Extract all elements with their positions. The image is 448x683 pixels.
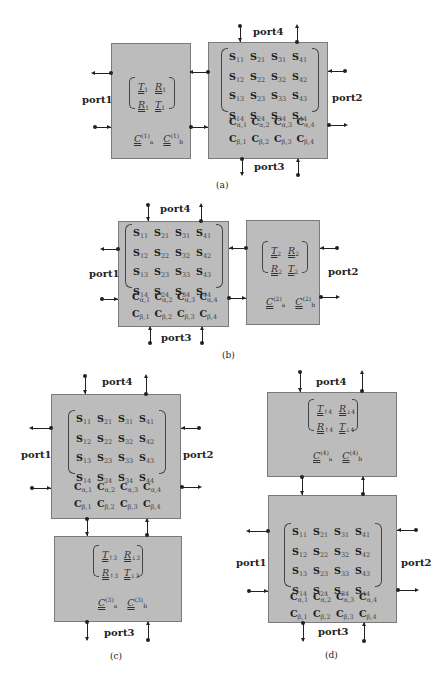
c-element: Cα,1 <box>229 115 252 132</box>
arrow-up-icon <box>145 518 149 522</box>
arrow-down-icon <box>240 172 244 176</box>
port3-label: port3 <box>161 332 192 343</box>
right-paren-icon <box>169 77 175 109</box>
dot-icon <box>93 125 97 129</box>
right-paren-icon <box>137 545 143 577</box>
s-element: S21 <box>154 225 175 245</box>
c-element: Cβ,1 <box>132 307 155 324</box>
arrow-left-icon <box>189 70 193 74</box>
right-paren-icon <box>159 410 166 474</box>
s-element: S11 <box>76 411 97 431</box>
c-element: Cβ,4 <box>143 497 166 514</box>
c-matrix: Cα,1Cα,2Cα,3Cα,4Cβ,1Cβ,2Cβ,3Cβ,4 <box>229 115 319 149</box>
dot-icon <box>362 639 366 643</box>
arrow-left-icon <box>91 71 95 75</box>
block-4-box: T↑4R↓4R↑4T↓4 C(4)aC(4)b <box>267 392 397 477</box>
caption-d: (d) <box>325 650 338 660</box>
dot-icon <box>199 219 203 223</box>
s-element: S41 <box>196 225 217 245</box>
s-block-box: S11S21S31S41S12S22S32S42S13S23S33S43S14S… <box>208 42 328 159</box>
arrow-up-icon <box>199 203 203 207</box>
dot-icon <box>180 485 184 489</box>
dot-icon <box>327 123 331 127</box>
block-1-coeffs: C(1)aC(1)b <box>134 128 183 149</box>
dot-icon <box>295 40 299 44</box>
c-element: Cβ,2 <box>97 497 120 514</box>
s-element: S21 <box>97 411 118 431</box>
coefficient-a: C(1)a <box>134 128 153 149</box>
arrow-left-icon <box>29 426 33 430</box>
s-block-box: S11S21S31S41S12S22S32S42S13S23S33S43S14S… <box>51 394 181 519</box>
left-paren-icon <box>68 410 75 474</box>
block-3-coeffs: C(3)aC(3)b <box>98 592 147 613</box>
port1-label: port1 <box>21 449 52 460</box>
dot-icon <box>414 528 418 532</box>
left-paren-icon <box>129 77 135 109</box>
dot-icon <box>244 246 248 250</box>
s-element: S33 <box>175 264 196 284</box>
block-4-coeffs: C(4)aC(4)b <box>313 445 362 466</box>
s-element: S43 <box>196 264 217 284</box>
dot-icon <box>189 125 193 129</box>
s-element: S33 <box>271 88 292 108</box>
block-matrix-element: R↑4 <box>317 419 333 437</box>
right-paren-icon <box>352 399 358 431</box>
dot-icon <box>238 24 242 28</box>
c-matrix: Cα,1Cα,2Cα,3Cα,4Cβ,1Cβ,2Cβ,3Cβ,4 <box>74 480 166 514</box>
arrow-up-icon <box>148 326 152 330</box>
coefficient-b: C(4)b <box>342 445 362 466</box>
dot-icon <box>146 638 150 642</box>
block-matrix-element: T↑3 <box>102 547 118 565</box>
s-element: S11 <box>133 225 154 245</box>
port1-label: port1 <box>82 94 113 105</box>
arrow-down-icon <box>85 637 89 641</box>
c-element: Cβ,3 <box>336 607 359 624</box>
s-element: S33 <box>118 450 139 470</box>
dot-icon <box>300 475 304 479</box>
c-element: Cα,4 <box>297 115 320 132</box>
dot-icon <box>85 517 89 521</box>
block-matrix-element: T2 <box>288 261 299 279</box>
s-element: S22 <box>250 69 271 89</box>
port1-label: port1 <box>236 557 267 568</box>
c-element: Cβ,2 <box>313 607 336 624</box>
right-paren-icon <box>216 224 223 288</box>
arrow-right-icon <box>114 297 118 301</box>
c-matrix: Cα,1Cα,2Cα,3Cα,4Cβ,1Cβ,2Cβ,3Cβ,4 <box>290 590 382 624</box>
arrow-right-icon <box>242 296 246 300</box>
port1-label: port1 <box>89 268 120 279</box>
arrow-left-icon <box>181 426 185 430</box>
coefficient-a: C(3)a <box>98 592 117 613</box>
s-element: S32 <box>271 69 292 89</box>
c-element: Cα,4 <box>143 480 166 497</box>
dot-icon <box>144 392 148 396</box>
arrow-left-icon <box>246 529 250 533</box>
s-block-box: S11S21S31S41S12S22S32S42S13S23S33S43S14S… <box>268 495 397 623</box>
arrow-up-icon <box>360 370 364 374</box>
dot-icon <box>343 69 347 73</box>
s-element: S32 <box>334 544 355 564</box>
s-element: S42 <box>196 245 217 265</box>
dot-icon <box>296 173 300 177</box>
arrow-up-icon <box>144 374 148 378</box>
s-element: S31 <box>118 411 139 431</box>
s-element: S41 <box>355 524 376 544</box>
port1-line-top <box>248 531 268 532</box>
dot-icon <box>247 589 251 593</box>
s-element: S13 <box>292 563 313 583</box>
c-element: Cα,1 <box>132 290 155 307</box>
dot-icon <box>396 588 400 592</box>
s-element: S12 <box>292 544 313 564</box>
dot-icon <box>116 247 120 251</box>
s-element: S32 <box>118 431 139 451</box>
c-element: Cα,1 <box>290 590 313 607</box>
arrow-left-icon <box>328 69 332 73</box>
dot-icon <box>361 492 365 496</box>
s-element: S43 <box>355 563 376 583</box>
c-element: Cα,3 <box>177 290 200 307</box>
right-paren-icon <box>312 48 319 112</box>
block-matrix-element: T1 <box>155 97 166 115</box>
dot-icon <box>30 486 34 490</box>
arrow-up-icon <box>295 24 299 28</box>
s-element: S12 <box>229 69 250 89</box>
